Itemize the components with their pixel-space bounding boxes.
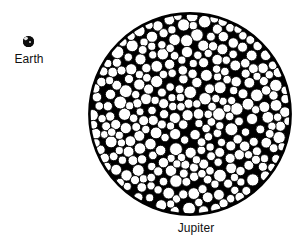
earth-highlight-secondary-icon bbox=[29, 41, 31, 43]
earth-highlight-icon bbox=[24, 37, 29, 42]
jupiter-disc-icon bbox=[86, 11, 294, 217]
jupiter-svg bbox=[86, 11, 294, 217]
earth-label: Earth bbox=[1, 52, 57, 66]
earth-group: Earth bbox=[0, 36, 56, 66]
jupiter-label: Jupiter bbox=[140, 221, 252, 235]
size-comparison-figure: Earth Jupiter bbox=[0, 0, 306, 241]
earth-globe-icon bbox=[23, 36, 34, 47]
